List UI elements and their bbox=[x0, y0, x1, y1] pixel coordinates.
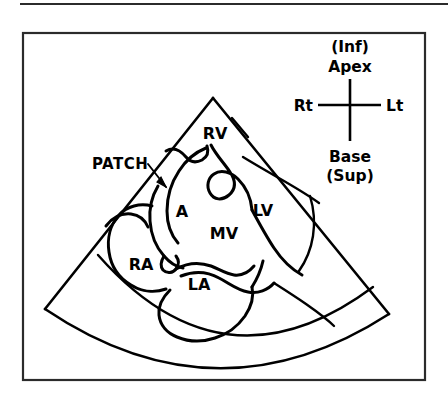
compass-right-label: Lt bbox=[386, 97, 404, 115]
compass-top-line2: Apex bbox=[328, 58, 372, 76]
label-la: LA bbox=[188, 275, 211, 294]
label-ra: RA bbox=[129, 255, 154, 274]
compass-bottom-line2: (Sup) bbox=[326, 167, 373, 185]
label-mv: MV bbox=[210, 224, 239, 243]
figure-container: PATCH RV LV A MV RA LA (Inf) Apex Rt Lt … bbox=[0, 0, 448, 404]
compass-top-line1: (Inf) bbox=[331, 38, 369, 56]
label-rv: RV bbox=[203, 124, 228, 143]
patch-label: PATCH bbox=[92, 155, 148, 173]
label-lv: LV bbox=[253, 201, 274, 220]
compass-bottom-line1: Base bbox=[329, 148, 371, 166]
compass-left-label: Rt bbox=[294, 97, 314, 115]
echocardiogram-schematic: PATCH RV LV A MV RA LA (Inf) Apex Rt Lt … bbox=[0, 0, 448, 404]
label-a: A bbox=[176, 202, 189, 221]
page-background bbox=[0, 0, 448, 404]
